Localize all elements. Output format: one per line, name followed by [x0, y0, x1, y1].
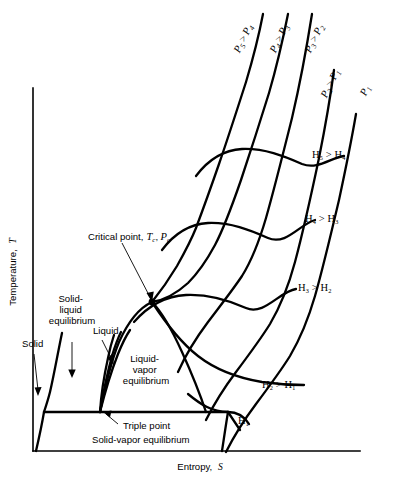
enthalpy-label-h4: H₄ > H₃: [305, 213, 339, 224]
enthalpy-label-h1: H₁: [238, 415, 249, 426]
region-label-liquid-vapor-l3: equilibrium: [123, 375, 169, 386]
solid-arrow-line: [34, 354, 38, 390]
y-axis-label: Temperature, T: [7, 238, 18, 306]
region-label-solid-liquid-l1: Solid-: [58, 293, 83, 304]
enthalpy-label-h5: H₅ > H₄: [312, 149, 346, 160]
isobar-p3: [178, 14, 312, 372]
critical-point-leader: [122, 243, 151, 299]
region-label-liquid: Liquid: [93, 325, 119, 336]
y-axis-label-var: T: [7, 238, 18, 244]
critical-point-label-group: Critical point,Tc,Pc: [88, 231, 171, 244]
low-temperature-curves-group: [36, 330, 240, 451]
isobar-p2: [206, 70, 334, 420]
pressure-label-p3: P3>P2: [302, 22, 328, 56]
region-label-solid-vapor: Solid-vapor equilibrium: [92, 434, 190, 445]
solid-liquid-arrowhead: [68, 370, 75, 379]
x-axis-label-text: Entropy,: [177, 461, 212, 472]
solid-vapor-leg: [222, 412, 228, 451]
ts-phase-diagram: Temperature, T Entropy, S P5>P4 P4>P3 P3…: [0, 0, 395, 477]
enthalpy-label-h2: H₂ > H₁: [262, 379, 296, 390]
y-axis-label-text: Temperature,: [7, 249, 18, 306]
region-label-triple-point: Triple point: [123, 420, 170, 431]
diagram-canvas: Temperature, T Entropy, S P5>P4 P4>P3 P3…: [0, 0, 395, 477]
critical-point-marker: [149, 299, 156, 306]
solid-arrowhead: [35, 387, 42, 396]
enthalpy-label-h3: H₃ > H₂: [298, 282, 332, 293]
solid-branch-lower: [36, 412, 44, 451]
critical-point-label: Critical point,Tc,Pc: [88, 231, 171, 244]
region-label-liquid-vapor: Liquid- vapor equilibrium: [123, 353, 169, 386]
critical-point-label-main: Critical point,: [88, 231, 143, 242]
solid-branch: [44, 333, 62, 412]
x-axis-label-var: S: [218, 461, 223, 472]
region-label-solid: Solid: [22, 338, 43, 349]
axes-group: [33, 88, 360, 451]
pressure-label-p1: P1: [357, 84, 374, 100]
enthalpy-labels-group: H₅ > H₄ H₄ > H₃ H₃ > H₂ H₂ > H₁ H₁: [238, 149, 346, 426]
isenthalp-h2: [152, 302, 304, 385]
pressure-label-p5: P5>P4: [231, 22, 257, 56]
x-axis-label: Entropy, S: [177, 461, 223, 472]
region-label-solid-liquid-l3: equilibrium: [49, 315, 95, 326]
region-label-liquid-vapor-l2: vapor: [133, 364, 158, 375]
region-label-solid-liquid: Solid- liquid equilibrium: [49, 293, 95, 326]
isenthalp-h4: [162, 220, 315, 250]
region-label-liquid-vapor-l1: Liquid-: [130, 353, 159, 364]
region-label-solid-liquid-l2: liquid: [59, 304, 81, 315]
